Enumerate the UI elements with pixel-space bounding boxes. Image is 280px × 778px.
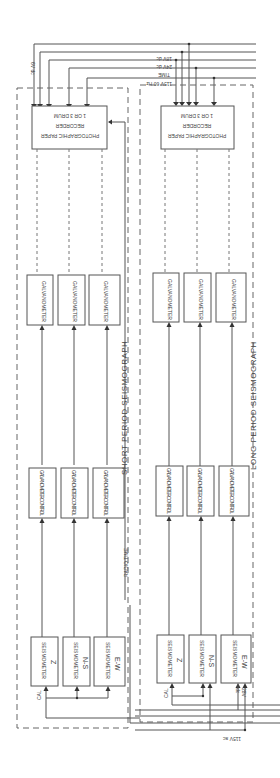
long-period-seismograph: 1 OR 3 DRUM RECORDER PHOTOGRAPHIC PAPER … xyxy=(135,85,280,742)
short-seis-z-axis: Z xyxy=(50,660,57,665)
short-seis-z-label: SEISMOMETER xyxy=(41,642,47,679)
short-seis-ns-axis: N-S xyxy=(82,657,89,669)
radio-time-label: RADIO TIME xyxy=(123,547,129,577)
label-115v-60hz: 115V 60 Hz xyxy=(146,81,172,87)
long-recorder-line3: 1 OR 3 DRUM xyxy=(181,113,213,119)
label-18v-dc: 18V dc xyxy=(156,56,172,62)
long-seis-z-axis: Z xyxy=(176,658,183,663)
long-control-3: GALVANOMETER CONTROL xyxy=(229,468,235,514)
short-period-seismograph: 1 OR 3 DRUM RECORDER PHOTOGRAPHIC PAPER … xyxy=(17,88,280,728)
long-control-1: GALVANOMETER CONTROL xyxy=(166,468,172,514)
label-time: TIME xyxy=(157,72,170,78)
short-cal-label: CAL xyxy=(36,690,42,700)
short-recorder-line1: PHOTOGRAPHIC PAPER xyxy=(40,133,99,139)
power-bus xyxy=(31,43,256,108)
short-control-3: GALVANOMETER CONTROL xyxy=(103,470,109,516)
long-dc-label: dc xyxy=(235,688,241,694)
short-galv-1: GALVANOMETER xyxy=(41,281,47,322)
long-seis-z-label: SEISMOMETER xyxy=(167,640,173,677)
short-seis-ew-label: SEISMOMETER xyxy=(105,642,111,679)
short-seis-ew-axis: E-W xyxy=(114,657,121,671)
short-period-title: SHORT PERIOD SEISMOGRAPH xyxy=(120,341,129,475)
short-control-2: GALVANOMETER CONTROL xyxy=(71,470,77,516)
label-24v-dc: 24V dc xyxy=(156,64,172,70)
long-galv-3: GALVANOMETER xyxy=(231,279,237,320)
long-galv-1: GALVANOMETER xyxy=(167,279,173,320)
label-6v-dc: 6V dc xyxy=(30,62,36,75)
seismograph-block-diagram: 6V dc 18V dc 24V dc TIME 115V 60 Hz 1 OR… xyxy=(0,0,280,778)
short-galv-2: GALVANOMETER xyxy=(72,281,78,322)
long-seis-ew-axis: E-W xyxy=(241,655,248,669)
long-cal-label: CAL xyxy=(163,688,169,698)
short-recorder-line3: 1 OR 3 DRUM xyxy=(54,113,86,119)
long-control-2: GALVANOMETER CONTROL xyxy=(197,468,203,514)
long-galv-2: GALVANOMETER xyxy=(198,279,204,320)
short-seis-ns-label: SEISMOMETER xyxy=(73,642,79,679)
short-galv-3: GALVANOMETER xyxy=(103,281,109,322)
short-control-1: GALVANOMETER CONTROL xyxy=(39,470,45,516)
power-labels: 6V dc 18V dc 24V dc TIME 115V 60 Hz xyxy=(30,56,172,87)
short-recorder-line2: RECORDER xyxy=(55,123,84,129)
long-period-title: LONG PERIOD SEISMOGRAPH xyxy=(249,341,258,470)
long-seis-ew-label: SEISMOMETER xyxy=(232,640,238,677)
long-seis-ns-axis: N-S xyxy=(208,655,215,667)
label-115v-ac: 115V ac xyxy=(223,736,241,742)
long-recorder-line1: PHOTOGRAPHIC PAPER xyxy=(167,133,226,139)
long-recorder-line2: RECORDER xyxy=(182,123,211,129)
long-seis-ns-label: SEISMOMETER xyxy=(199,640,205,677)
